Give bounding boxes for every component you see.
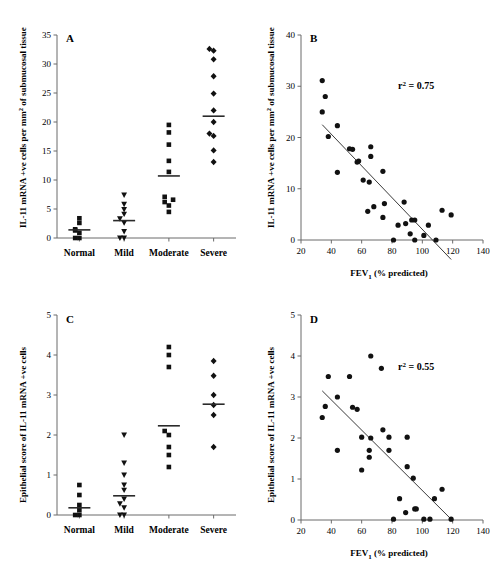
data-point — [121, 433, 127, 438]
panel-a-svg: IL-11 mRNA +ve cells per mm2 of submucos… — [0, 0, 248, 288]
y-tick-label: 35 — [42, 30, 52, 40]
data-point — [162, 195, 167, 200]
y-tick-label: 0 — [291, 235, 296, 245]
data-point — [414, 506, 419, 511]
data-point — [408, 231, 413, 236]
data-point — [211, 119, 217, 125]
panel-d: Epithelial score of IL-11 mRNA +ve cells… — [248, 283, 497, 571]
data-point — [167, 365, 172, 370]
data-point — [121, 497, 127, 502]
data-point — [368, 154, 373, 159]
data-point — [402, 199, 407, 204]
data-point — [386, 448, 391, 453]
data-point — [167, 353, 172, 358]
data-point — [320, 109, 325, 114]
x-tick-label: 60 — [357, 526, 367, 536]
data-point — [121, 193, 127, 198]
data-point — [335, 394, 340, 399]
x-tick-label: 140 — [476, 246, 490, 256]
y-tick-label: 5 — [47, 310, 52, 320]
data-point — [412, 237, 417, 242]
data-point — [380, 215, 385, 220]
panel-c-data-layer — [68, 345, 224, 518]
y-tick-label: 0 — [47, 510, 52, 520]
data-point — [167, 445, 172, 450]
category-label-severe: Severe — [200, 525, 227, 535]
panel-c-svg: Epithelial score of IL-11 mRNA +ve cells… — [0, 283, 248, 571]
category-label-mild: Mild — [114, 248, 134, 258]
data-point — [73, 236, 78, 241]
data-point — [359, 467, 364, 472]
panel-b-ylabel: IL-11 mRNA +ve cells per mm2 of submucos… — [265, 27, 276, 228]
data-point — [361, 177, 366, 182]
x-tick-label: 120 — [446, 526, 460, 536]
data-point — [77, 483, 82, 488]
data-point — [77, 216, 82, 221]
panel-c-letter: C — [66, 313, 74, 325]
y-tick-label: 40 — [286, 30, 296, 40]
data-point — [380, 169, 385, 174]
data-point — [211, 159, 217, 165]
data-point — [426, 223, 431, 228]
y-tick-label: 4 — [47, 350, 52, 360]
data-point — [432, 496, 437, 501]
category-label-moderate: Moderate — [149, 248, 189, 258]
data-point — [335, 123, 340, 128]
data-point — [355, 407, 360, 412]
data-point — [121, 229, 127, 234]
panel-d-r2-annotation: r2 = 0.55 — [398, 361, 434, 373]
data-point — [167, 453, 172, 458]
data-point — [167, 170, 172, 175]
data-point — [380, 427, 385, 432]
data-point — [403, 510, 408, 515]
y-tick-label: 1 — [291, 474, 296, 484]
data-point — [77, 221, 82, 226]
data-point — [439, 208, 444, 213]
panel-d-ylabel: Epithelial score of IL-11 mRNA +ve cells — [266, 347, 276, 503]
data-point — [73, 513, 78, 518]
data-point — [211, 107, 217, 113]
x-tick-label: 120 — [446, 246, 460, 256]
data-point — [162, 429, 167, 434]
panel-a-axes: 05101520253035 — [42, 30, 236, 243]
data-point — [335, 170, 340, 175]
panel-a-data-layer — [68, 46, 224, 241]
data-point — [382, 201, 387, 206]
panel-b-letter: B — [310, 32, 318, 44]
category-label-normal: Normal — [64, 248, 95, 258]
data-point — [355, 160, 360, 165]
panel-c-ylabel: Epithelial score of IL-11 mRNA +ve cells — [18, 347, 28, 503]
panel-b-xlabel: FEV1 (% predicted) — [350, 268, 427, 281]
data-point — [421, 517, 426, 522]
data-point — [379, 366, 384, 371]
data-point — [368, 144, 373, 149]
data-point — [386, 435, 391, 440]
data-point — [171, 197, 176, 202]
y-tick-label: 30 — [42, 59, 52, 69]
y-tick-label: 1 — [47, 470, 52, 480]
panel-a: IL-11 mRNA +ve cells per mm2 of submucos… — [0, 0, 248, 288]
y-tick-label: 5 — [47, 204, 52, 214]
data-point — [77, 493, 82, 498]
panel-c: Epithelial score of IL-11 mRNA +ve cells… — [0, 283, 248, 571]
category-label-normal: Normal — [64, 525, 95, 535]
y-tick-label: 0 — [47, 233, 52, 243]
data-point — [367, 448, 372, 453]
data-point — [421, 233, 426, 238]
panel-d-letter: D — [310, 313, 318, 325]
panel-b: IL-11 mRNA +ve cells per mm2 of submucos… — [248, 0, 497, 288]
data-point — [335, 448, 340, 453]
x-tick-label: 40 — [327, 526, 337, 536]
figure-container: IL-11 mRNA +ve cells per mm2 of submucos… — [0, 0, 497, 571]
data-point — [350, 405, 355, 410]
data-point — [412, 217, 417, 222]
x-tick-label: 20 — [297, 526, 307, 536]
data-point — [397, 496, 402, 501]
y-tick-label: 10 — [286, 184, 296, 194]
x-tick-label: 140 — [476, 526, 490, 536]
data-point — [211, 444, 217, 450]
data-point — [121, 483, 127, 488]
y-tick-label: 3 — [291, 392, 296, 402]
data-point — [368, 435, 373, 440]
data-point — [167, 130, 172, 135]
